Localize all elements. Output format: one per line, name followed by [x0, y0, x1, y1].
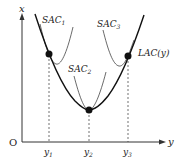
cost-curve-diagram: x y O y1 y2 y3 SAC1 SAC2 SAC3 LAC(y): [0, 0, 185, 164]
origin-label: O: [9, 137, 17, 148]
sac3-curve: [103, 30, 134, 66]
horizontal-axis-label: y: [167, 136, 174, 147]
tick-label-y2: y2: [83, 147, 93, 158]
vertical-axis-label: x: [19, 3, 25, 14]
sac3-label: SAC3: [97, 19, 121, 30]
sac1-label: SAC1: [42, 15, 65, 26]
horizontal-axis-arrow-icon: [159, 140, 166, 145]
vertical-axis-arrow-icon: [20, 13, 25, 20]
tick-label-y1: y1: [43, 147, 53, 158]
tick-label-y3: y3: [122, 147, 132, 158]
tangency-point-1: [46, 51, 53, 58]
lac-label: LAC(y): [137, 48, 170, 58]
sac2-label: SAC2: [68, 64, 92, 75]
tangency-points: [46, 51, 132, 114]
tangency-point-2: [86, 107, 93, 114]
tangency-point-3: [125, 53, 132, 60]
